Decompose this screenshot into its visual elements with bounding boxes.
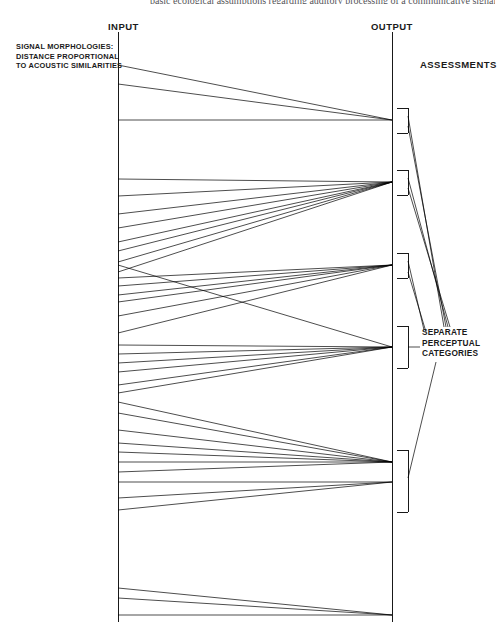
connection-line <box>118 588 392 615</box>
bracket-group <box>397 108 408 512</box>
connection-line <box>118 413 392 462</box>
connection-line <box>118 265 392 302</box>
fan-mapping-diagram <box>0 0 500 622</box>
leader-line <box>408 272 426 332</box>
connection-lines-group <box>118 65 392 615</box>
bracket-4 <box>397 326 408 368</box>
connection-line <box>118 402 392 462</box>
bracket-5 <box>397 450 408 512</box>
connection-line <box>118 482 392 510</box>
connection-line <box>118 84 392 120</box>
axes-group <box>118 32 392 622</box>
connection-line <box>118 265 392 347</box>
connection-line <box>118 598 392 615</box>
connection-line <box>118 265 392 278</box>
signal-morphologies-label: SIGNAL MORPHOLOGIES: DISTANCE PROPORTION… <box>16 42 124 71</box>
bracket-1 <box>397 108 408 133</box>
output-column-label: OUTPUT <box>371 21 413 32</box>
diagram-stage: basic ecological assumptions regarding a… <box>0 0 500 622</box>
leader-line <box>408 261 424 330</box>
connection-line <box>118 347 392 393</box>
input-column-label: INPUT <box>108 21 139 32</box>
connection-line <box>118 182 392 272</box>
connection-line <box>118 482 392 498</box>
connection-line <box>118 345 392 347</box>
connection-line <box>118 65 392 120</box>
connection-line <box>118 347 392 363</box>
leader-line <box>408 188 450 327</box>
connection-line <box>118 182 392 214</box>
connection-line <box>118 182 392 251</box>
leader-line <box>408 178 448 327</box>
leader-line <box>408 362 436 478</box>
connection-line <box>118 179 392 182</box>
bracket-3 <box>397 253 408 278</box>
connection-line <box>118 462 392 472</box>
bracket-2 <box>397 170 408 195</box>
assessments-label: ASSESSMENTS <box>420 59 497 70</box>
separate-perceptual-categories-label: SEPARATE PERCEPTUAL CATEGORIES <box>422 327 498 359</box>
connection-line <box>118 182 392 242</box>
leader-line <box>408 126 446 327</box>
leader-lines-group <box>408 116 450 478</box>
